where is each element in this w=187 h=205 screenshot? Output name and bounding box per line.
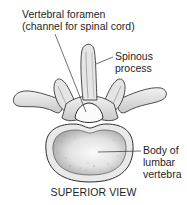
spinous-leader-line bbox=[96, 57, 113, 64]
spinous-process bbox=[81, 44, 97, 100]
spinous-process-label: Spinous process bbox=[115, 50, 153, 74]
label-line: Spinous bbox=[115, 50, 153, 62]
vertebral-body-label: Body of lumbar vertebra bbox=[143, 144, 182, 180]
vertebral-foramen-label: Vertebral foramen (channel for spinal co… bbox=[22, 8, 135, 32]
view-caption: SUPERIOR VIEW bbox=[0, 186, 187, 198]
label-line: Body of bbox=[143, 144, 182, 156]
label-line: Vertebral foramen bbox=[22, 8, 135, 20]
label-line: vertebra bbox=[143, 168, 182, 180]
label-line: (channel for spinal cord) bbox=[22, 20, 135, 32]
label-line: lumbar bbox=[143, 156, 182, 168]
vertebral-body bbox=[46, 124, 133, 182]
label-line: process bbox=[115, 62, 153, 74]
